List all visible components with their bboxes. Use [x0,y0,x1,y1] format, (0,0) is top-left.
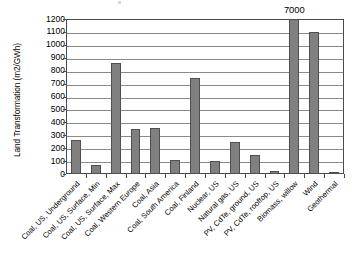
y-tick-label: 300 [25,131,65,140]
bar [309,32,319,174]
scan-artifact [118,1,121,4]
y-tick-label: 700 [25,79,65,88]
y-tick-label: 0 [25,170,65,179]
y-tick-label: 1200 [25,15,65,24]
bar [71,140,81,174]
y-axis-title: Land Transformation (m2/GWh) [12,20,22,180]
y-tick-label: 1100 [25,27,65,36]
bar [289,19,299,174]
bar [270,171,280,174]
bar [170,160,180,174]
y-tick-label: 1000 [25,40,65,49]
y-tick-label: 800 [25,66,65,75]
bars-layer [66,19,344,174]
bar [91,165,101,174]
bar [150,128,160,174]
bar [250,155,260,174]
bar [190,78,200,174]
overflow-value-label: 7000 [264,4,324,15]
y-tick-mark [63,174,66,175]
y-tick-label: 600 [25,92,65,101]
y-tick-label: 900 [25,53,65,62]
bar-chart: Land Transformation (m2/GWh) 01002003004… [0,0,354,263]
bar [131,129,141,174]
bar [329,172,339,174]
y-tick-label: 500 [25,105,65,114]
bar [230,142,240,174]
y-tick-label: 100 [25,157,65,166]
bar [111,63,121,174]
y-tick-label: 200 [25,144,65,153]
y-tick-label: 400 [25,118,65,127]
bar [210,161,220,174]
x-axis-labels: Coal, US, UndergroundCoal, US, Surface, … [0,178,354,263]
